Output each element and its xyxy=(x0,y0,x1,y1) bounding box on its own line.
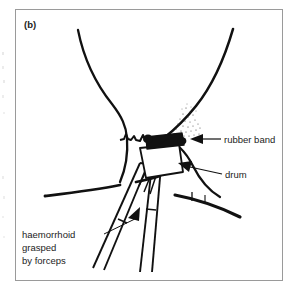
haemorrhoid-label-line1: haemorrhoid xyxy=(22,229,75,240)
rubber-band-left-knot xyxy=(143,135,153,144)
rubber-band-callout: rubber band xyxy=(190,134,275,145)
scan-artifacts xyxy=(2,52,5,238)
rubber-band-label: rubber band xyxy=(224,134,275,145)
drum-label: drum xyxy=(225,169,247,180)
panel-label: (b) xyxy=(24,19,36,30)
figure-panel-b: rubber band drum haemorrhoid grasped by … xyxy=(0,0,295,291)
haemorrhoid-label-line3: by forceps xyxy=(22,255,66,266)
rubber-band-right-knot xyxy=(178,137,187,145)
medical-illustration-svg: rubber band drum haemorrhoid grasped by … xyxy=(0,0,295,291)
haemorrhoid-label-line2: grasped xyxy=(22,242,56,253)
forceps-right-joint xyxy=(146,209,156,210)
